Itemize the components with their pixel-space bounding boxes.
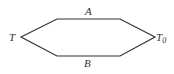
- label-right-vertex: T0: [156, 31, 166, 45]
- hexagon-outline: [21, 19, 155, 56]
- label-top-edge: A: [84, 5, 92, 17]
- label-right-vertex-subscript: 0: [162, 36, 166, 45]
- label-left-vertex: T: [9, 31, 16, 43]
- label-bottom-edge: B: [84, 57, 91, 69]
- hexagon-diagram: A B T T0: [0, 0, 174, 74]
